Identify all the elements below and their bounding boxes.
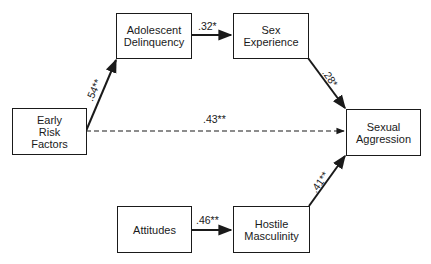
edge-label-early-risk-aggression: .43**	[203, 113, 226, 125]
node-early-risk-factors: Early Risk Factors	[12, 108, 87, 155]
node-label: Early Risk Factors	[31, 114, 68, 150]
node-adolescent-delinquency: Adolescent Delinquency	[116, 13, 192, 59]
node-label: Hostile Masculinity	[244, 218, 298, 242]
node-label: Sexual Aggression	[356, 121, 411, 145]
node-sexual-aggression: Sexual Aggression	[346, 109, 421, 156]
node-sex-experience: Sex Experience	[233, 13, 309, 59]
edge-label-attitudes-hostile-masculinity: .46**	[196, 214, 219, 226]
node-hostile-masculinity: Hostile Masculinity	[233, 206, 310, 253]
edge-label-delinquency-sex-experience: .32*	[198, 20, 217, 32]
node-label: Sex Experience	[243, 24, 298, 48]
node-label: Adolescent Delinquency	[124, 24, 185, 48]
node-attitudes: Attitudes	[117, 206, 192, 253]
node-label: Attitudes	[133, 224, 176, 236]
